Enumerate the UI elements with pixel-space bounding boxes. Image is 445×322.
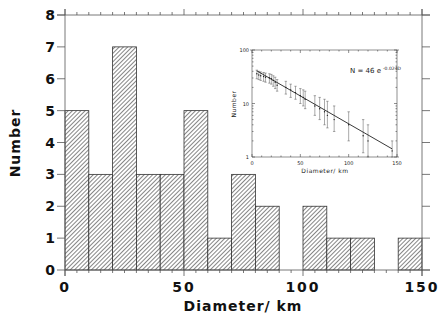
histogram-bar: [255, 206, 279, 270]
inset-x-tick-label: 0: [250, 160, 253, 166]
y-axis-title: Number: [7, 109, 23, 178]
x-axis-title: Diameter/ km: [184, 298, 303, 314]
histogram-bar: [89, 174, 113, 270]
x-tick-label: 100: [285, 279, 320, 295]
histogram-bar: [184, 111, 208, 270]
histogram-bar: [160, 174, 184, 270]
x-tick-label: 0: [59, 279, 71, 295]
y-tick-label: 6: [45, 71, 55, 87]
histogram-bar: [208, 238, 232, 270]
histogram-bar: [65, 111, 89, 270]
inset-x-axis-title: Diameter/ km: [301, 167, 348, 174]
histogram-bar: [303, 206, 327, 270]
x-tick-label: 50: [172, 279, 195, 295]
inset-log-plot: 050100150110100 N = 46 e-0.024D Diameter…: [230, 47, 402, 174]
inset-x-tick-label: 150: [392, 160, 402, 166]
histogram-bar: [351, 238, 375, 270]
histogram-bar: [327, 238, 351, 270]
y-tick-label: 8: [45, 7, 55, 23]
y-tick-label: 7: [45, 39, 55, 55]
inset-y-axis-title: Number: [230, 90, 237, 117]
histogram-bar: [398, 238, 422, 270]
histogram-bar: [113, 47, 137, 270]
y-tick-label: 3: [45, 166, 55, 182]
y-tick-label: 1: [45, 230, 55, 246]
histogram-bar: [232, 174, 256, 270]
y-tick-label: 2: [45, 198, 55, 214]
y-tick-label: 0: [45, 262, 55, 278]
y-tick-label: 4: [45, 135, 55, 151]
histogram-bar: [136, 174, 160, 270]
inset-y-tick-label: 1: [246, 154, 249, 160]
x-tick-label: 150: [404, 279, 439, 295]
inset-y-tick-label: 10: [243, 101, 249, 107]
histogram-chart: 050100150012345678 Diameter/ km Number 0…: [0, 0, 445, 322]
inset-x-tick-label: 100: [344, 160, 354, 166]
inset-y-tick-label: 100: [239, 47, 249, 53]
y-tick-label: 5: [45, 103, 55, 119]
inset-equation-exponent: -0.024D: [383, 66, 402, 71]
inset-x-tick-label: 50: [297, 160, 303, 166]
